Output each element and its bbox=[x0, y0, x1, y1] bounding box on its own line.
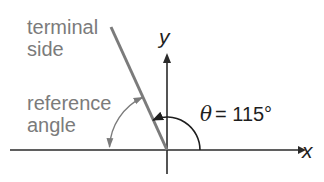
theta-symbol: θ bbox=[200, 102, 212, 126]
arrowhead-up-icon bbox=[163, 53, 171, 63]
x-axis-label: x bbox=[301, 139, 314, 162]
reference-angle-diagram: x y terminal side reference angle θ = 11… bbox=[0, 0, 324, 182]
y-axis: y bbox=[157, 25, 171, 174]
reference-angle-arc bbox=[110, 97, 143, 147]
terminal-side-label-line1: terminal bbox=[27, 16, 98, 38]
reference-angle-label-line1: reference bbox=[27, 92, 112, 114]
terminal-side-label-line2: side bbox=[27, 38, 64, 60]
theta-value-label: = 115° bbox=[215, 103, 272, 125]
y-axis-label: y bbox=[157, 25, 171, 48]
reference-angle-label-line2: angle bbox=[27, 114, 76, 136]
